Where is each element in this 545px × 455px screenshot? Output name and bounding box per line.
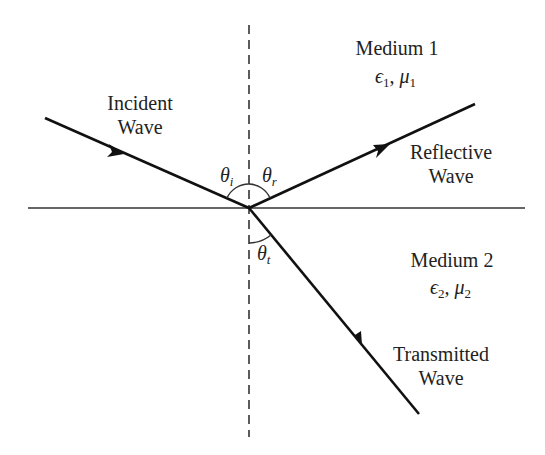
incident-label-line1: Incident [107, 92, 173, 114]
wave-diagram: Incident Wave Medium 1 ϵ1, μ1 Reflective… [0, 0, 545, 455]
medium1-params: ϵ1, μ1 [375, 65, 416, 90]
transmitted-label-line2: Wave [418, 367, 463, 389]
medium2-label: Medium 2 [411, 249, 494, 271]
reflective-label-line2: Wave [428, 165, 473, 187]
theta-r-arc [249, 184, 270, 198]
transmitted-label-line1: Transmitted [393, 343, 489, 365]
theta-r-label: θr [262, 164, 278, 189]
medium2-params: ϵ2, μ2 [430, 276, 471, 301]
theta-t-label: θt [257, 242, 271, 267]
transmitted-arrow-icon [350, 331, 362, 345]
reflective-label-line1: Reflective [410, 141, 492, 163]
transmitted-ray [249, 208, 419, 414]
incident-label-line2: Wave [117, 116, 162, 138]
theta-i-label: θi [220, 164, 234, 189]
medium1-label: Medium 1 [356, 37, 439, 59]
